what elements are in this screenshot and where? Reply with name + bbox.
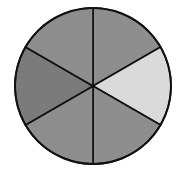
fraction-circle-diagram [0,0,179,173]
